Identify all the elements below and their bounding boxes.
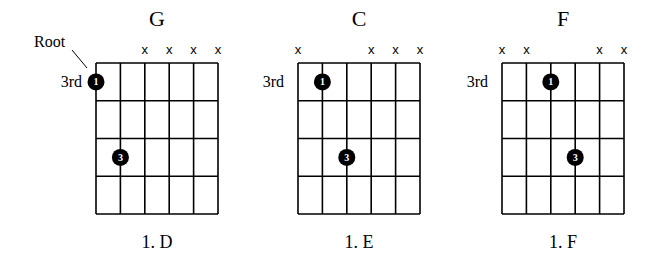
muted-string-x-icon: x bbox=[166, 42, 173, 57]
chord-title: G bbox=[149, 6, 165, 31]
svg-text:1: 1 bbox=[548, 76, 553, 87]
fretboard-grid bbox=[502, 63, 624, 214]
finger-dot-1: 1 bbox=[88, 73, 105, 90]
muted-string-x-icon: x bbox=[295, 42, 302, 57]
finger-dot-1: 1 bbox=[314, 73, 331, 90]
muted-string-x-icon: x bbox=[621, 42, 628, 57]
fret-position-label: 3rd bbox=[263, 73, 284, 90]
chord-diagram-c: C3rdxxxx131. E bbox=[263, 6, 424, 252]
finger-dot-3: 3 bbox=[338, 149, 355, 166]
root-label: Root bbox=[34, 33, 66, 50]
finger-dot-1: 1 bbox=[542, 73, 559, 90]
chord-title: F bbox=[557, 6, 569, 31]
fretboard-grid bbox=[96, 63, 218, 214]
muted-string-x-icon: x bbox=[499, 42, 506, 57]
chord-title: C bbox=[352, 6, 367, 31]
svg-text:3: 3 bbox=[118, 152, 123, 163]
muted-string-x-icon: x bbox=[190, 42, 197, 57]
fret-position-label: 3rd bbox=[467, 73, 488, 90]
chord-diagrams: G3rdxxxx131. DRootC3rdxxxx131. EF3rdxxxx… bbox=[0, 0, 660, 269]
chord-diagram-f: F3rdxxxx131. F bbox=[467, 6, 628, 252]
svg-text:1: 1 bbox=[94, 76, 99, 87]
chord-caption: 1. F bbox=[549, 232, 577, 252]
chord-caption: 1. D bbox=[142, 232, 173, 252]
muted-string-x-icon: x bbox=[368, 42, 375, 57]
finger-dot-3: 3 bbox=[567, 149, 584, 166]
muted-string-x-icon: x bbox=[142, 42, 149, 57]
finger-dot-3: 3 bbox=[112, 149, 129, 166]
muted-string-x-icon: x bbox=[417, 42, 424, 57]
svg-text:3: 3 bbox=[573, 152, 578, 163]
muted-string-x-icon: x bbox=[215, 42, 222, 57]
fret-position-label: 3rd bbox=[61, 73, 82, 90]
chord-caption: 1. E bbox=[345, 232, 374, 252]
muted-string-x-icon: x bbox=[523, 42, 530, 57]
chord-diagram-g: G3rdxxxx131. DRoot bbox=[34, 6, 222, 252]
svg-text:1: 1 bbox=[320, 76, 325, 87]
root-annotation: Root bbox=[34, 33, 87, 68]
muted-string-x-icon: x bbox=[392, 42, 399, 57]
muted-string-x-icon: x bbox=[596, 42, 603, 57]
svg-text:3: 3 bbox=[344, 152, 349, 163]
